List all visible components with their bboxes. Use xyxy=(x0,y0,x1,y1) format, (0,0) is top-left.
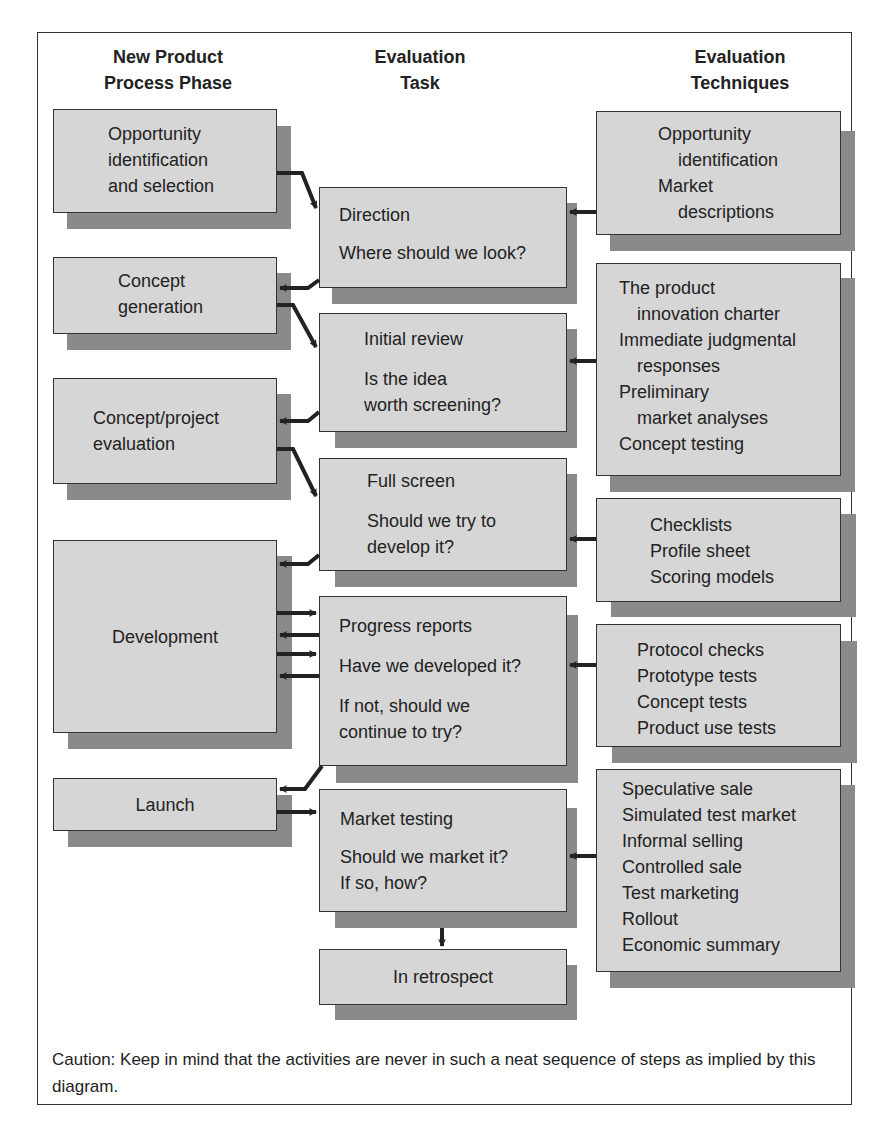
task-box-in-retrospect: In retrospect xyxy=(319,949,567,1005)
technique-box-protocol: Protocol checks Prototype tests Concept … xyxy=(596,624,841,747)
task-question: If not, should we xyxy=(339,693,566,719)
task-box-full-screen: Full screen Should we try to develop it? xyxy=(319,458,567,571)
technique-box-market: Speculative sale Simulated test market I… xyxy=(596,769,841,972)
task-question: Is the idea xyxy=(364,366,566,392)
phase-box-concept-generation: Concept generation xyxy=(53,257,277,334)
technique-box-opportunity: Opportunity identification Market descri… xyxy=(596,111,841,235)
technique-item: Economic summary xyxy=(622,932,840,958)
phase-text: Concept/project xyxy=(93,405,276,431)
phase-box-development: Development xyxy=(53,540,277,733)
technique-item: Opportunity xyxy=(658,121,840,147)
technique-item: Scoring models xyxy=(650,564,840,590)
header-task-line1: Evaluation xyxy=(340,44,500,70)
technique-item: Concept testing xyxy=(619,431,840,457)
task-box-initial-review: Initial review Is the idea worth screeni… xyxy=(319,313,567,432)
caution-caption: Caution: Keep in mind that the activitie… xyxy=(52,1046,842,1100)
technique-item: Speculative sale xyxy=(622,776,840,802)
technique-item: The product xyxy=(619,275,840,301)
technique-box-checklists: Checklists Profile sheet Scoring models xyxy=(596,498,841,602)
task-title: Initial review xyxy=(364,326,566,352)
task-question: If so, how? xyxy=(340,870,566,896)
technique-item: Protocol checks xyxy=(637,637,840,663)
phase-text: Launch xyxy=(135,792,194,818)
header-techniques: Evaluation Techniques xyxy=(640,44,840,96)
technique-item: Immediate judgmental xyxy=(619,327,840,353)
technique-item: Concept tests xyxy=(637,689,840,715)
task-box-market-testing: Market testing Should we market it? If s… xyxy=(319,789,567,912)
task-title: Direction xyxy=(339,202,566,228)
task-question: Should we try to xyxy=(367,508,566,534)
technique-item: Test marketing xyxy=(622,880,840,906)
task-title: Market testing xyxy=(340,806,566,832)
task-question: develop it? xyxy=(367,534,566,560)
technique-item: Prototype tests xyxy=(637,663,840,689)
task-question: continue to try? xyxy=(339,719,566,745)
header-phase-line2: Process Phase xyxy=(78,70,258,96)
technique-item: descriptions xyxy=(658,199,840,225)
task-question: Where should we look? xyxy=(339,240,566,266)
task-question: Should we market it? xyxy=(340,844,566,870)
phase-text: identification xyxy=(108,147,276,173)
technique-item: Product use tests xyxy=(637,715,840,741)
task-title: In retrospect xyxy=(393,964,493,990)
phase-text: Development xyxy=(112,624,218,650)
phase-text: Concept xyxy=(118,268,276,294)
phase-box-opportunity: Opportunity identification and selection xyxy=(53,109,277,213)
task-box-direction: Direction Where should we look? xyxy=(319,187,567,288)
phase-text: Opportunity xyxy=(108,121,276,147)
technique-item: Controlled sale xyxy=(622,854,840,880)
technique-item: Profile sheet xyxy=(650,538,840,564)
technique-item: Simulated test market xyxy=(622,802,840,828)
phase-text: evaluation xyxy=(93,431,276,457)
technique-item: responses xyxy=(619,353,840,379)
phase-text: generation xyxy=(118,294,276,320)
phase-text: and selection xyxy=(108,173,276,199)
technique-item: Market xyxy=(658,173,840,199)
phase-box-launch: Launch xyxy=(53,778,277,831)
technique-item: Checklists xyxy=(650,512,840,538)
technique-item: Rollout xyxy=(622,906,840,932)
technique-item: identification xyxy=(658,147,840,173)
header-phase-line1: New Product xyxy=(78,44,258,70)
header-techniques-line2: Techniques xyxy=(640,70,840,96)
phase-box-concept-evaluation: Concept/project evaluation xyxy=(53,378,277,484)
task-title: Full screen xyxy=(367,468,566,494)
task-title: Progress reports xyxy=(339,613,566,639)
header-task: Evaluation Task xyxy=(340,44,500,96)
technique-item: market analyses xyxy=(619,405,840,431)
task-box-progress-reports: Progress reports Have we developed it? I… xyxy=(319,596,567,766)
header-phase: New Product Process Phase xyxy=(78,44,258,96)
header-task-line2: Task xyxy=(340,70,500,96)
technique-box-charter: The product innovation charter Immediate… xyxy=(596,263,841,476)
technique-item: innovation charter xyxy=(619,301,840,327)
technique-item: Preliminary xyxy=(619,379,840,405)
header-techniques-line1: Evaluation xyxy=(640,44,840,70)
task-question: worth screening? xyxy=(364,392,566,418)
technique-item: Informal selling xyxy=(622,828,840,854)
task-question: Have we developed it? xyxy=(339,653,566,679)
